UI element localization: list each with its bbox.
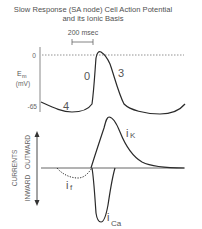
svg-text:i: i xyxy=(126,127,128,139)
svg-text:Ca: Ca xyxy=(111,219,122,228)
title-line-2: and its Ionic Basis xyxy=(62,14,123,23)
em-axis-label: E m (mV) xyxy=(16,70,30,88)
scale-bar-label: 200 msec xyxy=(68,29,99,36)
phase-3-label: 3 xyxy=(118,67,124,79)
if-trace xyxy=(57,168,92,178)
svg-text:K: K xyxy=(130,131,136,140)
currents-axis-arrow xyxy=(35,131,40,206)
outward-label: OUTWARD xyxy=(24,135,31,169)
if-label: i f xyxy=(66,179,73,192)
action-potential-diagram: Slow Response (SA node) Cell Action Pote… xyxy=(0,0,202,229)
ica-trace xyxy=(92,168,115,222)
tick-minus-65: -65 xyxy=(27,103,37,110)
svg-text:f: f xyxy=(70,183,73,192)
scale-bar xyxy=(72,39,93,45)
inward-label: INWARD xyxy=(24,175,31,202)
ik-trace xyxy=(91,117,184,168)
ik-label: i K xyxy=(126,127,136,140)
tick-0: 0 xyxy=(32,52,36,59)
svg-text:i: i xyxy=(107,211,109,223)
phase-4-label: 4 xyxy=(63,100,69,112)
phase-0-label: 0 xyxy=(84,70,90,82)
svg-text:i: i xyxy=(66,179,68,191)
em-label-subscript: m xyxy=(22,73,27,79)
title-line-1: Slow Response (SA node) Cell Action Pote… xyxy=(14,5,173,14)
ica-label: i Ca xyxy=(107,211,122,228)
em-unit-label: (mV) xyxy=(16,80,30,88)
currents-axis-title: CURRENTS xyxy=(11,149,18,186)
